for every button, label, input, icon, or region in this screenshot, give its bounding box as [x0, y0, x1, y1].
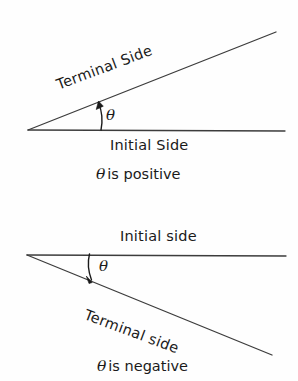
negative-angle-drawing: [0, 190, 298, 381]
initial-side-label: Initial Side: [110, 138, 189, 153]
negative-angle-panel: [0, 190, 298, 381]
initial-side-ray: [28, 130, 285, 131]
initial-side-ray: [27, 255, 286, 256]
theta-symbol: θ: [99, 259, 108, 274]
caption-text: is positive: [107, 166, 180, 182]
theta-symbol: θ: [106, 108, 115, 123]
caption-theta-symbol: θ: [97, 357, 108, 375]
angle-arc: [88, 254, 91, 280]
caption-theta-symbol: θ: [96, 165, 107, 183]
positive-angle-panel: Terminal Side Initial Side θ θis positiv…: [0, 0, 298, 190]
negative-angle-caption: θis negative: [97, 359, 188, 375]
initial-side-label: Initial side: [120, 229, 197, 244]
positive-angle-caption: θis positive: [96, 167, 180, 183]
angle-sign-figure: Terminal Side Initial Side θ θis positiv…: [0, 0, 298, 381]
caption-text: is negative: [108, 358, 188, 374]
positive-angle-drawing: [0, 0, 298, 190]
